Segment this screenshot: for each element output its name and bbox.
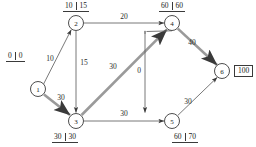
node-1-annotation: 0 0 bbox=[6, 52, 25, 62]
node-1-label: 1 bbox=[36, 86, 40, 94]
edge-weight-5-6: 30 bbox=[184, 97, 192, 106]
node-2-annotation: 10 15 bbox=[63, 2, 89, 12]
edge-3-5: 30 bbox=[84, 109, 164, 122]
node-5-annotation-first: 60 bbox=[172, 133, 186, 141]
node-3-annotation-second: 30 bbox=[66, 133, 79, 141]
edge-weight-4-5: 0 bbox=[137, 66, 141, 75]
edge-5-6: 30 bbox=[178, 77, 217, 115]
edge-weight-3-4: 30 bbox=[109, 62, 117, 71]
node-5-label: 5 bbox=[170, 118, 174, 126]
node-1[interactable]: 1 bbox=[31, 82, 46, 97]
edge-4-5: 0 bbox=[137, 31, 145, 113]
edge-weight-1-3: 30 bbox=[57, 93, 65, 102]
node-5-annotation-second: 70 bbox=[186, 133, 199, 141]
node-3-label: 3 bbox=[74, 118, 78, 126]
node-6-annotation: 100 bbox=[234, 65, 253, 77]
node-4[interactable]: 4 bbox=[165, 16, 180, 31]
node-5-annotation: 60 70 bbox=[172, 133, 198, 143]
node-4-annotation-second: 60 bbox=[173, 2, 186, 10]
edge-weight-2-4: 20 bbox=[120, 12, 128, 21]
node-5[interactable]: 5 bbox=[165, 114, 180, 129]
edge-1-3: 30 bbox=[44, 93, 70, 116]
edge-2-3: 15 bbox=[76, 31, 88, 113]
network-graph: 10 30 15 20 30 30 0 bbox=[0, 0, 256, 147]
node-2-annotation-first: 10 bbox=[63, 2, 77, 10]
node-3-annotation-first: 30 bbox=[52, 133, 66, 141]
node-4-annotation: 60 60 bbox=[159, 2, 185, 12]
edge-3-4: 30 bbox=[82, 30, 167, 115]
node-4-label: 4 bbox=[170, 20, 174, 28]
edge-4-6: 40 bbox=[178, 29, 217, 65]
edge-2-4: 20 bbox=[84, 12, 164, 24]
node-4-annotation-first: 60 bbox=[159, 2, 173, 10]
edge-weight-3-5: 30 bbox=[120, 109, 128, 118]
edge-weight-4-6: 40 bbox=[188, 38, 196, 47]
edge-1-2: 10 bbox=[44, 30, 72, 84]
node-3-annotation: 30 30 bbox=[52, 133, 78, 143]
node-2[interactable]: 2 bbox=[69, 16, 84, 31]
node-1-annotation-first: 0 bbox=[6, 52, 16, 60]
node-2-annotation-second: 15 bbox=[77, 2, 90, 10]
node-6-label: 6 bbox=[220, 68, 224, 76]
node-3[interactable]: 3 bbox=[69, 114, 84, 129]
node-1-annotation-second: 0 bbox=[16, 52, 25, 60]
diagram-canvas: 10 30 15 20 30 30 0 bbox=[0, 0, 256, 147]
edge-weight-2-3: 15 bbox=[80, 58, 88, 67]
edge-weight-1-2: 10 bbox=[46, 54, 54, 63]
node-6[interactable]: 6 bbox=[215, 64, 230, 79]
node-2-label: 2 bbox=[74, 20, 78, 28]
